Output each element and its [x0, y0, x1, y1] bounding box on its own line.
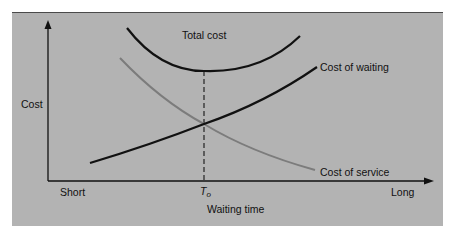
total-cost-label: Total cost	[182, 30, 226, 41]
x-tick-long: Long	[391, 187, 414, 198]
cost-of-waiting-label: Cost of waiting	[320, 62, 389, 73]
y-axis	[45, 20, 52, 181]
x-tick-t0: To	[200, 186, 211, 199]
cost-of-service-label: Cost of service	[320, 167, 389, 178]
y-axis-label: Cost	[21, 99, 43, 110]
x-axis	[48, 178, 434, 185]
x-axis-arrow-icon	[424, 178, 434, 185]
x-tick-short: Short	[60, 187, 85, 198]
t0-subscript: o	[206, 190, 210, 199]
y-axis-arrow-icon	[45, 20, 52, 29]
cost-of-service-curve	[120, 58, 315, 170]
x-axis-label: Waiting time	[207, 204, 264, 215]
